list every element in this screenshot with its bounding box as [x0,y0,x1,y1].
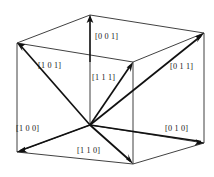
label-direction-010: [0 1 0] [165,124,188,133]
crystal-direction-diagram: [0 0 1] [1 0 1] [1 1 1] [0 1 1] [1 0 0] … [0,0,214,177]
label-direction-011: [0 1 1] [170,62,193,71]
label-direction-100: [1 0 0] [16,124,39,133]
direction-vector-101 [21,46,91,126]
label-direction-111: [1 1 1] [92,73,115,82]
label-direction-110: [1 1 0] [77,146,100,155]
cube-diagram-svg: [0 0 1] [1 0 1] [1 1 1] [0 1 1] [1 0 0] … [0,0,214,177]
label-direction-001: [0 0 1] [95,32,118,41]
arrowhead-110 [126,154,133,164]
label-direction-101: [1 0 1] [38,61,61,70]
